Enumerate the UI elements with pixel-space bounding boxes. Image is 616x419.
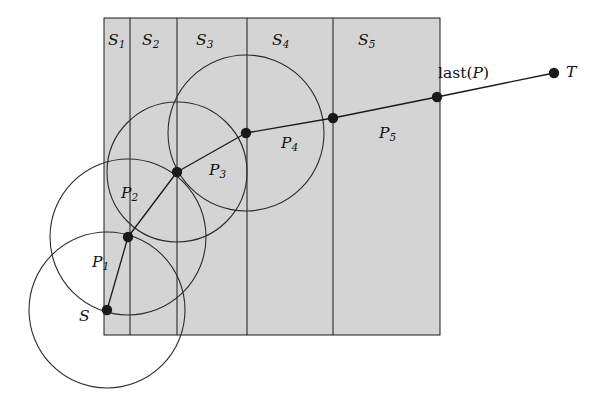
vertex-dot-v3 (241, 128, 251, 138)
vertex-dot-T (549, 68, 559, 78)
label-base: S (142, 31, 153, 49)
segment-label-p2: P2 (121, 186, 138, 202)
label-base: S (196, 31, 207, 49)
label-base: P (379, 124, 389, 142)
label-subscript: 1 (119, 38, 126, 50)
segment-label-p1: P1 (92, 255, 109, 271)
label-subscript: 1 (102, 260, 109, 272)
vertex-dot-v5 (432, 92, 442, 102)
shaded-slab-region (104, 18, 440, 335)
diagram-svg (0, 0, 616, 419)
segment-label-p3: P3 (209, 163, 226, 179)
vertex-dot-v2 (172, 167, 182, 177)
function-label-argument: P (472, 64, 482, 82)
label-base: P (281, 134, 291, 152)
slab-label-s3: S3 (196, 33, 213, 49)
label-subscript: 4 (291, 141, 298, 153)
label-subscript: 4 (283, 38, 290, 50)
segment-label-p4: P4 (281, 136, 298, 152)
label-base: P (209, 161, 219, 179)
label-base: P (92, 253, 102, 271)
point-label-s-label: S (79, 309, 90, 325)
segment-label-p5: P5 (379, 126, 396, 142)
label-subscript: 3 (219, 168, 226, 180)
function-label-suffix: ) (483, 64, 489, 82)
figure-canvas: S1S2S3S4S5P1P2P3P4P5STlast(P) (0, 0, 616, 419)
label-subscript: 5 (369, 38, 376, 50)
point-label-t-label: T (566, 65, 576, 81)
label-subscript: 2 (131, 191, 138, 203)
slab-rectangle (104, 18, 440, 335)
label-subscript: 3 (207, 38, 214, 50)
vertex-dot-v1 (123, 232, 133, 242)
label-subscript: 2 (153, 38, 160, 50)
label-base: S (272, 31, 283, 49)
slab-label-s5: S5 (358, 33, 375, 49)
label-base: S (358, 31, 369, 49)
vertex-dot-S (102, 305, 112, 315)
slab-label-s4: S4 (272, 33, 289, 49)
vertex-dot-v4 (328, 113, 338, 123)
function-label-prefix: last( (438, 64, 472, 82)
label-base: S (108, 31, 119, 49)
slab-label-s2: S2 (142, 33, 159, 49)
label-subscript: 5 (389, 131, 396, 143)
slab-label-s1: S1 (108, 33, 125, 49)
label-base: P (121, 184, 131, 202)
function-label-last-of-p: last(P) (438, 66, 489, 82)
